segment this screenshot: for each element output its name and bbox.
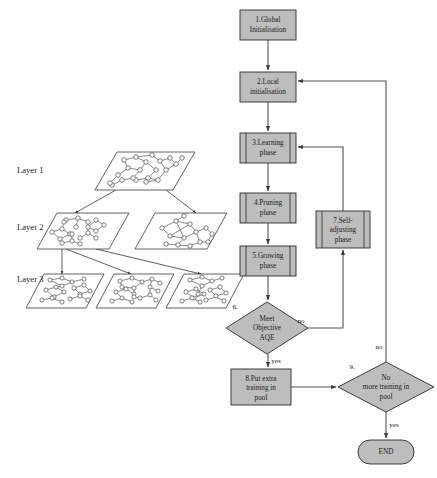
layered-network-diagram: Layer 1 Layer 2 Layer 3 bbox=[17, 152, 244, 308]
node-pruning-phase[interactable]: 4.Pruning phase bbox=[240, 193, 296, 223]
layer-1-plane bbox=[95, 152, 195, 190]
node-7-line-1: 7.Self- bbox=[333, 217, 353, 225]
node-7-line-3: phase bbox=[335, 236, 351, 244]
node-put-extra-training-in-pool[interactable]: 8.Put extra training in pool bbox=[231, 369, 291, 405]
node-1-line-1: 1.Global bbox=[256, 16, 281, 24]
node-9-line-3: pool bbox=[380, 393, 393, 401]
figure-canvas: Layer 1 Layer 2 Layer 3 bbox=[0, 0, 437, 478]
layer-3-label: Layer 3 bbox=[17, 274, 43, 284]
node-self-adjusting-phase[interactable]: 7.Self- adjusting phase bbox=[316, 211, 370, 248]
node-meet-objective-aqe-decision[interactable]: Meet Objective AQE 6. bbox=[226, 302, 308, 354]
node-9-line-2: more training in bbox=[363, 383, 410, 391]
edge-label-6-yes: yes bbox=[271, 357, 281, 365]
node-7-line-2: adjusting bbox=[330, 226, 357, 234]
layer-2-plane-1 bbox=[37, 213, 129, 249]
node-5-line-2: phase bbox=[260, 262, 276, 270]
flowchart: 1.Global Initialisation 2.Local initiali… bbox=[226, 10, 434, 464]
node-8-line-3: pool bbox=[255, 394, 268, 402]
layer-3-plane-2 bbox=[96, 274, 174, 308]
edge-label-9-no: no bbox=[376, 343, 384, 351]
node-6-line-2: Objective bbox=[253, 324, 281, 332]
node-end-terminator[interactable]: END bbox=[358, 440, 414, 464]
edge-label-6-no: no bbox=[298, 317, 306, 325]
layer-1-label: Layer 1 bbox=[17, 165, 43, 175]
node-5-line-1: 5.Growing bbox=[253, 252, 284, 260]
edge-n7-n3 bbox=[298, 147, 343, 211]
node-9-step-number: 9. bbox=[349, 363, 355, 371]
node-4-line-2: phase bbox=[260, 209, 276, 217]
node-local-initialisation[interactable]: 2.Local initialisation bbox=[240, 72, 296, 102]
node-6-line-3: AQE bbox=[260, 334, 275, 342]
diagram-vector-layer: Layer 1 Layer 2 Layer 3 bbox=[0, 0, 437, 478]
node-8-line-1: 8.Put extra bbox=[245, 375, 277, 383]
node-4-line-1: 4.Pruning bbox=[254, 199, 283, 207]
layer-2-plane-2 bbox=[135, 213, 227, 249]
node-2-line-2: initialisation bbox=[250, 88, 286, 96]
edge-n6-n7-no bbox=[308, 250, 343, 328]
node-9-line-1: No bbox=[382, 374, 391, 382]
node-8-line-2: training in bbox=[246, 384, 276, 392]
node-2-line-1: 2.Local bbox=[257, 78, 279, 86]
node-end-label: END bbox=[379, 448, 394, 456]
node-6-line-1: Meet bbox=[260, 315, 275, 323]
node-no-more-training-in-pool-decision[interactable]: No more training in pool 9. bbox=[338, 362, 434, 412]
node-6-step-number: 6. bbox=[232, 303, 238, 311]
node-1-line-2: Initialisation bbox=[250, 26, 287, 34]
node-3-line-2: phase bbox=[260, 149, 276, 157]
node-growing-phase[interactable]: 5.Growing phase bbox=[240, 246, 296, 276]
layer-2-label: Layer 2 bbox=[17, 222, 43, 232]
node-learning-phase[interactable]: 3.Learning phase bbox=[240, 133, 296, 163]
node-global-initialisation[interactable]: 1.Global Initialisation bbox=[240, 10, 296, 40]
node-3-line-1: 3.Learning bbox=[252, 139, 284, 147]
edge-label-9-yes: yes bbox=[389, 421, 399, 429]
